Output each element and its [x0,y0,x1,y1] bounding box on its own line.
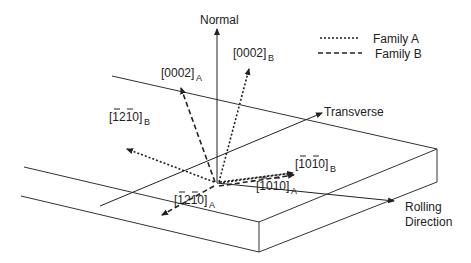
normal-label: Normal [200,13,239,27]
label-c-a-main: [0002] [161,66,194,80]
label-c-b-sub: B [268,53,274,63]
rolling-label-line1: Rolling [405,200,442,214]
label-c-a-sub: A [196,73,202,83]
label-m-b-sub: B [330,164,336,174]
plate-left-top-edge [24,167,259,222]
label-a-b: [1210] B [109,109,150,127]
label-a-a-sub: A [209,200,215,210]
legend: Family A Family B [318,32,422,61]
rolling-direction-axis [217,183,394,201]
label-m-b: [1010] B [295,156,336,174]
label-a-b-sub: B [144,117,150,127]
label-a-a-main: [1210] [174,193,207,207]
rolled-plate-texture-diagram: Normal Transverse Rolling Direction [000… [0,0,471,263]
label-c-a: [0002] A [161,66,202,83]
legend-family-b-label: Family B [375,47,422,61]
transverse-label: Transverse [324,105,384,119]
plate-left-bottom-edge [21,196,259,252]
legend-family-a-label: Family A [373,32,419,46]
label-c-b-main: [0002] [233,46,266,60]
crystal-directions [127,69,294,215]
label-c-b: [0002] B [233,46,274,63]
label-m-a: [1010] A [256,178,297,196]
c-axis-family-b-arrow [219,69,249,182]
plate-outline [21,76,437,252]
label-m-a-main: [1010] [256,179,289,193]
label-a-b-main: [1210] [109,110,142,124]
a-axis-family-b-arrow [127,149,214,182]
plate-back-edge [112,76,437,149]
label-m-a-sub: A [291,186,297,196]
c-axis-family-a-arrow [181,88,215,182]
label-m-b-main: [1010] [295,157,328,171]
rolling-label-line2: Direction [405,215,452,229]
